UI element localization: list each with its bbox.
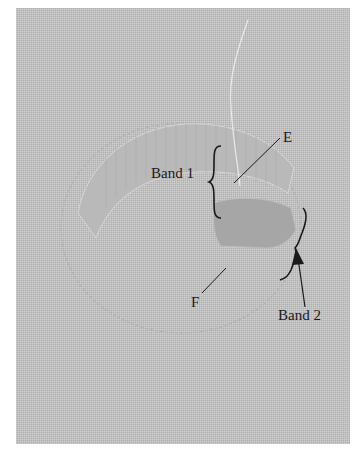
point-f-label: F [191,295,199,310]
band-1-label: Band 1 [151,166,194,181]
embroidery-photo: Band 1 E F Band 2 [16,8,350,444]
embroidery-illustration [16,8,350,444]
band-2-stitching [213,198,296,248]
band-2-arrow-shaft [298,258,305,307]
point-e-label: E [283,130,292,145]
f-leader-line [202,268,226,293]
band-2-label: Band 2 [278,308,321,323]
